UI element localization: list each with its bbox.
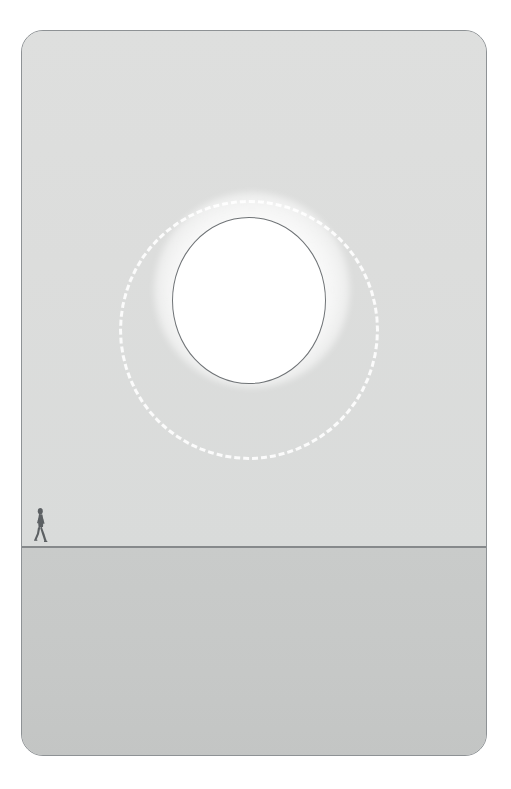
figure-anchor <box>22 507 62 547</box>
ground-region <box>22 547 486 756</box>
illustration-canvas <box>0 0 511 789</box>
illustration-panel <box>21 30 487 756</box>
white-disc <box>172 217 326 384</box>
walking-person-icon <box>34 507 48 547</box>
horizon-line <box>22 546 486 548</box>
